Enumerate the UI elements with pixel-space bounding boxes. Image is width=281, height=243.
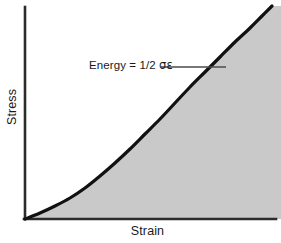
y-axis-label: Stress xyxy=(5,101,19,125)
shaded-energy-area xyxy=(25,6,281,219)
energy-annotation-label: Energy = 1/2 σε xyxy=(89,58,173,72)
area-fill-path xyxy=(25,6,281,219)
energy-annotation-symbols: σε xyxy=(159,58,173,72)
energy-annotation-text: Energy = 1/2 xyxy=(89,59,159,71)
stress-strain-figure: Energy = 1/2 σε Stress Strain xyxy=(0,0,281,243)
x-axis-label: Strain xyxy=(100,224,195,238)
plot-canvas xyxy=(0,0,281,243)
